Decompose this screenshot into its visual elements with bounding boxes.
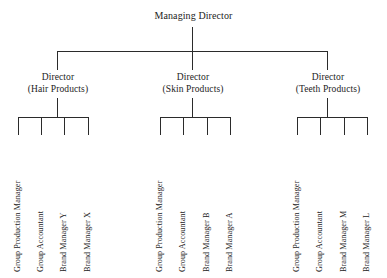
leaf-skin-brand-manager-b: Brand Manager B bbox=[203, 213, 212, 272]
leaf-teeth-group-production-manager: Group Production Manager bbox=[293, 181, 302, 272]
node-director-teeth: Director (Teeth Products) bbox=[268, 72, 387, 95]
connector-leaf-drop-1-4 bbox=[88, 117, 89, 135]
connector-leaf-drop-2-4 bbox=[230, 117, 231, 135]
connector-leaf-drop-3-2 bbox=[320, 117, 321, 135]
node-managing-director: Managing Director bbox=[0, 10, 387, 22]
connector-branch-stem-1 bbox=[57, 98, 58, 117]
director-skin-title: Director bbox=[133, 72, 253, 84]
leaf-hair-brand-manager-y: Brand Manager Y bbox=[60, 212, 69, 272]
org-chart: Managing Director Director (Hair Product… bbox=[0, 0, 387, 278]
director-skin-subtitle: (Skin Products) bbox=[133, 84, 253, 96]
connector-branch-stem-2 bbox=[192, 98, 193, 117]
node-director-skin: Director (Skin Products) bbox=[133, 72, 253, 95]
connector-director-drop-3 bbox=[327, 51, 328, 70]
connector-root-stem bbox=[192, 27, 193, 52]
connector-leaf-drop-1-1 bbox=[18, 117, 19, 135]
connector-branch-stem-3 bbox=[327, 98, 328, 117]
connector-leaf-drop-3-1 bbox=[297, 117, 298, 135]
connector-director-drop-1 bbox=[57, 51, 58, 70]
connector-leaf-drop-1-3 bbox=[64, 117, 65, 135]
connector-leaf-drop-2-2 bbox=[183, 117, 184, 135]
leaf-hair-group-accountant: Group Accountant bbox=[37, 211, 46, 272]
director-teeth-title: Director bbox=[268, 72, 387, 84]
connector-branch-bus-2 bbox=[160, 117, 231, 118]
director-hair-subtitle: (Hair Products) bbox=[0, 84, 118, 96]
director-hair-title: Director bbox=[0, 72, 118, 84]
leaf-skin-group-accountant: Group Accountant bbox=[179, 211, 188, 272]
leaf-hair-brand-manager-x: Brand Manager X bbox=[84, 212, 93, 272]
leaf-skin-brand-manager-a: Brand Manager A bbox=[226, 213, 235, 272]
connector-branch-bus-3 bbox=[297, 117, 368, 118]
leaf-teeth-group-accountant: Group Accountant bbox=[316, 211, 325, 272]
connector-leaf-drop-3-3 bbox=[344, 117, 345, 135]
connector-branch-bus-1 bbox=[18, 117, 89, 118]
leaf-teeth-brand-manager-l: Brand Manager L bbox=[363, 213, 372, 272]
connector-leaf-drop-1-2 bbox=[41, 117, 42, 135]
node-director-hair: Director (Hair Products) bbox=[0, 72, 118, 95]
leaf-teeth-brand-manager-m: Brand Manager M bbox=[340, 211, 349, 272]
leaf-skin-group-production-manager: Group Production Manager bbox=[156, 181, 165, 272]
connector-leaf-drop-2-1 bbox=[160, 117, 161, 135]
leaf-hair-group-production-manager: Group Production Manager bbox=[14, 181, 23, 272]
director-teeth-subtitle: (Teeth Products) bbox=[268, 84, 387, 96]
connector-director-drop-2 bbox=[192, 51, 193, 70]
connector-leaf-drop-3-4 bbox=[367, 117, 368, 135]
connector-leaf-drop-2-3 bbox=[207, 117, 208, 135]
